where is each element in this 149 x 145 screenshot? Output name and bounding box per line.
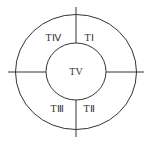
quadrant-diagram: TV TⅠ TⅡ TⅢ TⅣ <box>0 0 149 145</box>
label-quadrant-1: TⅠ <box>84 32 93 43</box>
label-center: TV <box>69 66 83 77</box>
label-quadrant-3: TⅢ <box>50 103 63 114</box>
label-quadrant-4: TⅣ <box>45 32 61 43</box>
label-quadrant-2: TⅡ <box>83 103 94 114</box>
